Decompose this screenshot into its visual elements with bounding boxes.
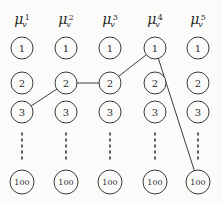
node-label: 100 xyxy=(14,178,29,187)
node-c3-row3[interactable]: 3 xyxy=(99,101,121,123)
node-label: 3 xyxy=(107,107,113,118)
nodes-group: 123100123100123100123100123100 xyxy=(10,37,210,194)
node-label: 100 xyxy=(190,178,205,187)
node-label: 100 xyxy=(147,178,162,187)
node-c2-row1[interactable]: 1 xyxy=(55,37,77,59)
node-c5-row3[interactable]: 3 xyxy=(187,101,209,123)
node-label: 3 xyxy=(195,107,201,118)
node-label: 3 xyxy=(19,107,25,118)
node-c4-row2[interactable]: 2 xyxy=(144,72,166,94)
node-label: 100 xyxy=(58,178,73,187)
node-c2-row100[interactable]: 100 xyxy=(54,170,78,194)
node-c3-row2[interactable]: 2 xyxy=(99,72,121,94)
node-c2-row2[interactable]: 2 xyxy=(55,72,77,94)
node-c1-row1[interactable]: 1 xyxy=(11,37,33,59)
node-c2-row3[interactable]: 3 xyxy=(55,101,77,123)
node-c4-row3[interactable]: 3 xyxy=(144,101,166,123)
node-label: 1 xyxy=(107,43,113,54)
node-c5-row1[interactable]: 1 xyxy=(187,37,209,59)
node-label: 2 xyxy=(195,78,201,89)
trellis-diagram: 123100123100123100123100123100 μv1μv2μv3… xyxy=(0,0,222,202)
node-label: 1 xyxy=(152,43,158,54)
node-c5-row2[interactable]: 2 xyxy=(187,72,209,94)
node-label: 2 xyxy=(19,78,25,89)
trellis-canvas: 123100123100123100123100123100 xyxy=(0,0,222,202)
node-label: 3 xyxy=(63,107,69,118)
node-c1-row2[interactable]: 2 xyxy=(11,72,33,94)
node-label: 1 xyxy=(19,43,25,54)
node-c1-row100[interactable]: 100 xyxy=(10,170,34,194)
node-c1-row3[interactable]: 3 xyxy=(11,101,33,123)
node-label: 2 xyxy=(63,78,69,89)
node-c3-row1[interactable]: 1 xyxy=(99,37,121,59)
node-label: 1 xyxy=(195,43,201,54)
node-label: 2 xyxy=(107,78,113,89)
node-c5-row100[interactable]: 100 xyxy=(186,170,210,194)
ellipsis-group xyxy=(22,133,198,163)
node-label: 1 xyxy=(63,43,69,54)
node-label: 2 xyxy=(152,78,158,89)
node-c3-row100[interactable]: 100 xyxy=(98,170,122,194)
node-label: 100 xyxy=(102,178,117,187)
node-label: 3 xyxy=(152,107,158,118)
node-c4-row100[interactable]: 100 xyxy=(143,170,167,194)
node-c4-row1[interactable]: 1 xyxy=(144,37,166,59)
